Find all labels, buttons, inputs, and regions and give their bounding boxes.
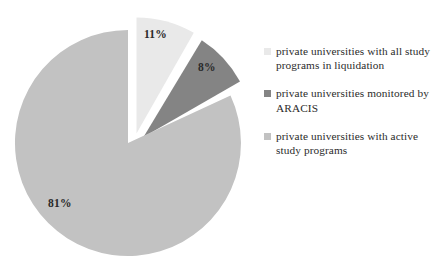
square-marker-icon: [264, 90, 271, 97]
legend-item-label: private universities with all study prog…: [276, 44, 434, 72]
pie-slice-label-liquidation: 11%: [144, 29, 167, 41]
legend-item-monitored[interactable]: private universities monitored by ARACIS: [264, 86, 434, 114]
legend-item-liquidation[interactable]: private universities with all study prog…: [264, 44, 434, 72]
square-marker-icon: [264, 48, 271, 55]
legend-item-active[interactable]: private universities with active study p…: [264, 129, 434, 157]
pie-slice-label-monitored: 8%: [198, 62, 216, 74]
pie-slice-label-active: 81%: [48, 198, 72, 210]
square-marker-icon: [264, 133, 271, 140]
legend-item-label: private universities monitored by ARACIS: [276, 86, 434, 114]
pie-chart-plot-area: 11% 8% 81%: [0, 0, 262, 264]
pie-chart-svg: [0, 0, 262, 264]
pie-chart-figure: 11% 8% 81% private universities with all…: [0, 0, 437, 264]
legend-item-label: private universities with active study p…: [276, 129, 434, 157]
chart-legend: private universities with all study prog…: [264, 44, 434, 171]
